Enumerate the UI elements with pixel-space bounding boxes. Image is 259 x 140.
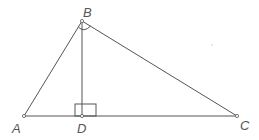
segment-ab xyxy=(24,21,82,116)
right-angle-mark-d xyxy=(75,104,96,116)
stray-dot xyxy=(211,44,213,46)
triangle-diagram: A B C D xyxy=(0,0,259,140)
label-c: C xyxy=(240,118,250,133)
segment-bc xyxy=(82,21,237,116)
point-a xyxy=(22,114,25,117)
right-angle-mark-b xyxy=(78,26,90,30)
label-a: A xyxy=(11,121,21,136)
point-d xyxy=(80,114,83,117)
label-b: B xyxy=(83,5,92,20)
label-d: D xyxy=(77,121,86,136)
point-c xyxy=(235,114,238,117)
